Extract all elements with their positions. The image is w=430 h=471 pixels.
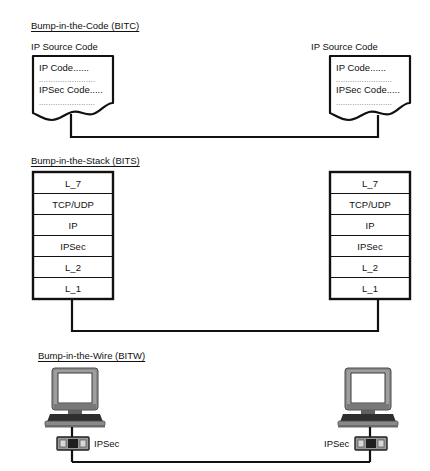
network-device-icon-left	[57, 437, 89, 462]
computer-icon-right	[338, 368, 398, 437]
bitw-graphics-layer	[0, 0, 430, 471]
network-device-icon-right	[355, 437, 387, 462]
ipsec-device-label-left: IPSec	[94, 438, 119, 449]
ipsec-device-label-right: IPSec	[324, 438, 349, 449]
diagram-canvas: Bump-in-the-Code (BITC) IP Source Code I…	[0, 0, 430, 471]
computer-icon-left	[45, 368, 105, 437]
